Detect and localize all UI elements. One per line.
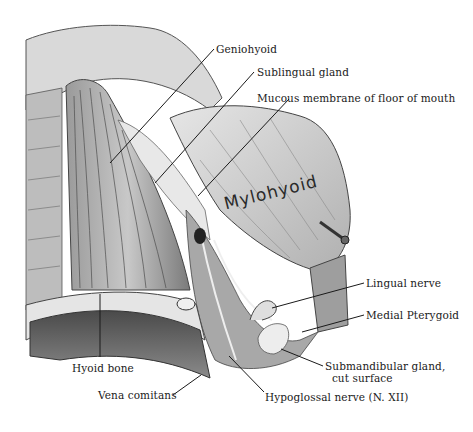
- label-medial-pterygoid: Medial Pterygoid: [366, 309, 459, 321]
- tongue-side: [26, 88, 62, 310]
- label-mucous-membrane: Mucous membrane of floor of mouth: [257, 92, 455, 104]
- label-vena-comitans: Vena comitans: [98, 389, 177, 401]
- label-hyoid-bone: Hyoid bone: [72, 362, 134, 374]
- lingual-nerve: [250, 301, 276, 320]
- label-lingual-nerve: Lingual nerve: [366, 277, 441, 289]
- anatomy-figure: Mylohyoid Geniohyoid Sublingual gland Mu…: [0, 0, 473, 432]
- label-sublingual-gland: Sublingual gland: [257, 66, 349, 78]
- label-hypoglossal-nerve: Hypoglossal nerve (N. XII): [265, 391, 409, 403]
- hyoid-tubercle: [177, 298, 195, 310]
- label-geniohyoid: Geniohyoid: [216, 43, 277, 55]
- vessel-cut: [194, 228, 206, 244]
- label-submandibular-gland: Submandibular gland, cut surface: [325, 360, 445, 384]
